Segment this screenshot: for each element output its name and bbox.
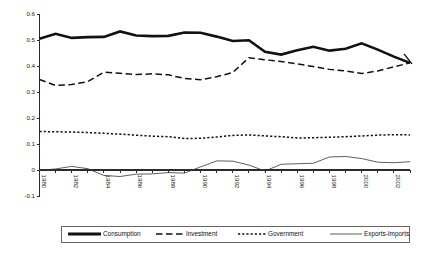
y-axis-tick-label: 0.3 bbox=[26, 88, 35, 95]
x-axis-tick-label: 1980 bbox=[41, 175, 48, 189]
x-axis-tick-label: 1986 bbox=[137, 175, 144, 189]
x-axis-tick-label: 1990 bbox=[202, 175, 209, 189]
data-series-group bbox=[40, 31, 413, 176]
y-axis-tick-label: 0.2 bbox=[26, 114, 35, 121]
legend-label: Investment bbox=[186, 230, 217, 237]
x-axis: 1980198219841986198819901992199419961998… bbox=[40, 170, 411, 189]
y-axis-tick-label: 0 bbox=[32, 166, 36, 173]
x-axis-tick-label: 1992 bbox=[234, 175, 241, 189]
y-axis: -0.100.10.20.30.40.50.6 bbox=[24, 10, 39, 199]
x-axis-tick-label: 2002 bbox=[395, 175, 402, 189]
y-axis-tick-label: 0.6 bbox=[26, 10, 35, 17]
x-axis-tick-label: 1984 bbox=[105, 175, 112, 189]
series-line-government bbox=[40, 132, 411, 139]
x-axis-tick-label: 1982 bbox=[73, 175, 80, 189]
y-axis-tick-label: 0.1 bbox=[26, 140, 35, 147]
y-axis-tick-label: 0.5 bbox=[26, 36, 35, 43]
legend-label: Exports-Imports bbox=[364, 230, 409, 238]
line-chart: -0.100.10.20.30.40.50.6 1980198219841986… bbox=[0, 0, 423, 254]
x-axis-tick-label: 1996 bbox=[299, 175, 306, 189]
x-axis-tick-label: 1994 bbox=[266, 175, 273, 189]
series-line-exports-imports bbox=[40, 156, 411, 176]
series-line-investment bbox=[40, 58, 411, 86]
legend-label: Consumption bbox=[103, 230, 141, 238]
y-axis-tick-label: -0.1 bbox=[24, 192, 35, 199]
chart-legend: ConsumptionInvestmentGovernmentExports-I… bbox=[61, 226, 409, 242]
chart-canvas: -0.100.10.20.30.40.50.6 1980198219841986… bbox=[0, 0, 423, 254]
x-axis-tick-label: 1988 bbox=[170, 175, 177, 189]
x-axis-tick-label: 2000 bbox=[363, 175, 370, 189]
series-line-consumption bbox=[40, 31, 411, 62]
legend-label: Government bbox=[268, 230, 303, 237]
y-axis-tick-label: 0.4 bbox=[26, 62, 35, 69]
x-axis-tick-label: 1998 bbox=[331, 175, 338, 189]
